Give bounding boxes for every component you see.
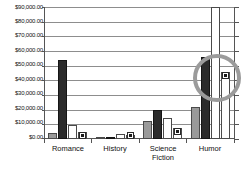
- data-point-marker: [79, 132, 86, 139]
- y-tick-label: $10,000.00: [15, 119, 43, 126]
- bar-group: [139, 7, 187, 139]
- x-axis-separator: [186, 139, 187, 143]
- y-tick-label: $30,000.00: [15, 90, 43, 97]
- bars-layer: [44, 7, 234, 139]
- y-tick-label: $90,000.00: [15, 4, 43, 11]
- x-tick-label-humor: Humor: [186, 144, 234, 153]
- x-tick-label-science-fiction: Science Fiction: [139, 144, 187, 162]
- bar-chart: $90,000.00 $80,000.00 $70,000.00 $60,000…: [0, 0, 245, 174]
- bar: [191, 107, 200, 139]
- right-tick: [234, 51, 239, 52]
- y-tick-label: $20,000.00: [15, 105, 43, 112]
- bar: [163, 118, 172, 139]
- x-tick-label-romance: Romance: [44, 144, 92, 153]
- bar: [221, 72, 230, 139]
- x-axis-labels: Romance History Science Fiction Humor: [44, 144, 239, 172]
- right-tick: [234, 36, 239, 37]
- bar: [106, 137, 115, 139]
- data-point-marker: [222, 72, 229, 79]
- bar-group: [187, 7, 235, 139]
- y-axis-labels: $90,000.00 $80,000.00 $70,000.00 $60,000…: [0, 0, 43, 140]
- bar: [201, 57, 210, 139]
- x-axis-separator: [139, 139, 140, 143]
- x-axis-separator: [91, 139, 92, 143]
- right-tick: [234, 7, 239, 8]
- bar: [48, 133, 57, 139]
- bar: [116, 134, 125, 139]
- bar: [153, 110, 162, 139]
- right-tick: [234, 124, 239, 125]
- right-tick: [234, 95, 239, 96]
- bar-group: [92, 7, 140, 139]
- right-tick: [234, 22, 239, 23]
- x-axis-separator: [234, 139, 235, 143]
- y-tick-label: $80,000.00: [15, 18, 43, 25]
- y-tick-label: $50,000.00: [15, 61, 43, 68]
- x-axis-separator: [44, 139, 45, 143]
- bar-group: [44, 7, 92, 139]
- bar: [143, 121, 152, 139]
- data-point-marker: [127, 132, 134, 139]
- bar: [211, 7, 220, 139]
- right-tick: [234, 66, 239, 67]
- x-tick-label-history: History: [91, 144, 139, 153]
- data-point-marker: [174, 128, 181, 135]
- bar: [68, 125, 77, 139]
- plot-right-border: [234, 7, 235, 140]
- y-tick-label: $70,000.00: [15, 32, 43, 39]
- bar: [96, 137, 105, 139]
- bar: [58, 60, 67, 139]
- y-tick-label: $60,000.00: [15, 47, 43, 54]
- y-tick-label: $0.00: [29, 134, 43, 141]
- right-tick: [234, 110, 239, 111]
- right-tick: [234, 80, 239, 81]
- y-tick-label: $40,000.00: [15, 76, 43, 83]
